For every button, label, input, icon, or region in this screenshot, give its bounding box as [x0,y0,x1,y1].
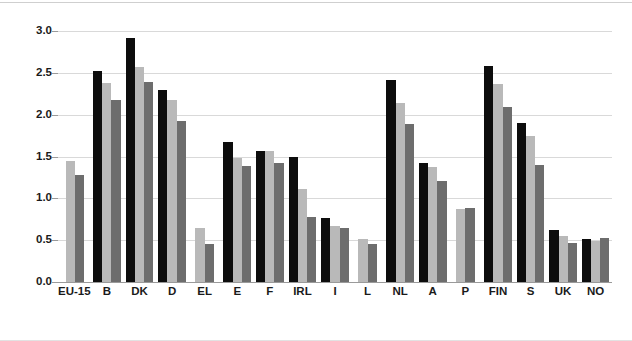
bar [368,244,377,282]
bar-group [66,31,84,282]
bar [568,243,577,282]
y-tick-mark [52,31,58,32]
bar [93,71,102,282]
bar-group [223,31,251,282]
bar [358,239,367,283]
x-tick-label: D [156,286,189,298]
bar-groups [58,31,612,282]
bar [66,161,75,282]
y-tick-label: 3.0 [6,25,52,37]
bar-group [517,31,545,282]
bar [135,67,144,282]
x-tick-label: E [221,286,254,298]
y-tick-label: 2.0 [6,109,52,121]
bar-group [321,31,349,282]
bar [307,217,316,282]
bar-group [126,31,154,282]
bar [242,166,251,282]
bar [298,189,307,282]
y-tick-mark [52,240,58,241]
bar [102,83,111,282]
bar [535,165,544,282]
gridline-0.0 [58,282,612,283]
bar [233,158,242,282]
bar [256,151,265,282]
x-axis-labels: EU-15BDKDELEFIRLILNLAPFINSUKNO [58,286,612,308]
y-tick-label: 2.5 [6,67,52,79]
bar [265,151,274,282]
bar [559,236,568,282]
y-tick-mark [52,282,58,283]
bar [330,226,339,282]
bar-group [484,31,512,282]
bar [437,181,446,282]
bar [503,107,512,282]
bar [405,124,414,282]
bar-chart: 0.00.51.01.52.02.53.0 EU-15BDKDELEFIRLIL… [0,0,632,341]
bar [177,121,186,282]
bar [223,142,232,282]
y-tick-mark [52,157,58,158]
plot-area [58,31,612,282]
bar [158,90,167,282]
bar [144,82,153,282]
y-tick-label: 1.5 [6,151,52,163]
bar [111,100,120,282]
bar [340,228,349,282]
x-tick-label: A [416,286,449,298]
x-tick-label: L [351,286,384,298]
x-tick-label: F [254,286,287,298]
y-tick-mark [52,198,58,199]
bar [195,228,204,282]
x-tick-label: EU-15 [58,286,91,298]
x-tick-label: EL [188,286,221,298]
x-tick-label: FIN [482,286,515,298]
y-tick-mark [52,115,58,116]
bar [321,218,330,282]
x-tick-label: I [319,286,352,298]
bar [465,208,474,282]
x-tick-label: NL [384,286,417,298]
x-tick-label: NO [579,286,612,298]
bar [493,84,502,282]
x-tick-label: UK [547,286,580,298]
bar [289,157,298,283]
bar [582,239,591,282]
bar [396,103,405,282]
x-tick-label: DK [123,286,156,298]
bar [600,238,609,282]
bar [205,244,214,282]
bar [274,163,283,282]
top-divider [0,2,632,3]
bar-group [419,31,447,282]
bar [484,66,493,282]
bar-group [582,31,610,282]
bar [549,230,558,282]
x-tick-label: P [449,286,482,298]
bar [591,241,600,282]
bar-group [93,31,121,282]
bar [456,209,465,282]
bar-group [456,31,474,282]
bar [126,38,135,282]
bar-group [256,31,284,282]
y-tick-label: 0.5 [6,234,52,246]
bar-group [386,31,414,282]
bar-group [289,31,317,282]
y-tick-label: 1.0 [6,192,52,204]
bar [419,163,428,282]
bar [75,175,84,282]
x-tick-label: IRL [286,286,319,298]
bar-group [358,31,376,282]
bar [167,100,176,282]
bar [526,136,535,282]
bar-group [158,31,186,282]
x-tick-label: S [514,286,547,298]
bar [386,80,395,282]
x-tick-label: B [91,286,124,298]
y-tick-label: 0.0 [6,276,52,288]
y-axis: 0.00.51.01.52.02.53.0 [0,31,52,282]
bar [517,123,526,282]
bar-group [195,31,213,282]
y-tick-mark [52,73,58,74]
